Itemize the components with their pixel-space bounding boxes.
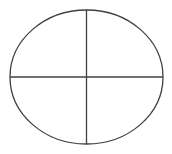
ellipse-diagram [0, 0, 172, 154]
